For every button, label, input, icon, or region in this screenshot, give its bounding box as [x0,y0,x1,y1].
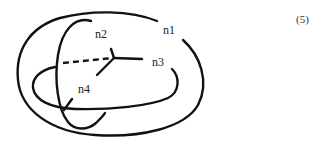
horizontal-loop-strand [33,67,178,109]
node-label-n2: n2 [95,28,107,40]
node-label-n3: n3 [152,56,164,68]
knot-diagram-svg [0,0,330,145]
equation-number: (5) [296,14,309,25]
node-label-n1: n1 [163,24,175,36]
dashed-edge [63,58,113,63]
node-label-n4: n4 [78,83,90,95]
vertex-tick [111,49,114,58]
edge-to-n3 [114,58,142,59]
knot-diagram-figure: n1 n2 n3 n4 (5) [0,0,330,145]
edge-to-n4 [97,58,114,75]
